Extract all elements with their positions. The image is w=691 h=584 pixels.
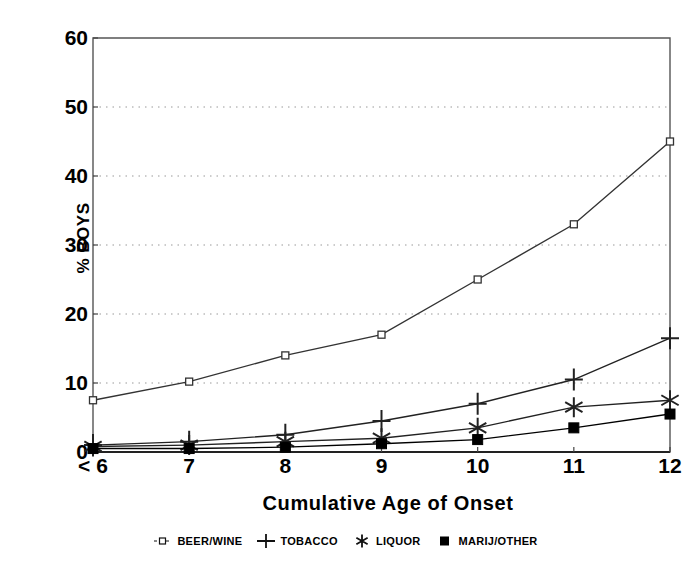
plus-icon — [256, 534, 276, 548]
legend-item: MARIJ/OTHER — [435, 534, 538, 548]
marker-plus — [469, 393, 487, 415]
x-tick-label: 11 — [563, 455, 585, 476]
marker-open-square — [474, 276, 481, 283]
filled-square-icon — [435, 534, 455, 548]
x-tick-label: 8 — [279, 455, 291, 476]
marker-filled-square — [665, 409, 675, 419]
x-tick-label: 9 — [376, 455, 388, 476]
marker-open-square — [186, 378, 193, 385]
asterisk-icon — [352, 534, 372, 548]
legend-item: BEER/WINE — [153, 534, 242, 548]
marker-filled-square — [473, 435, 483, 445]
series-line — [93, 142, 670, 401]
x-tick-label: 10 — [466, 455, 489, 476]
legend-filled-square — [440, 537, 449, 546]
marker-open-square — [90, 397, 97, 404]
marker-filled-square — [184, 444, 194, 454]
chart-figure: % BOYS 0102030405060 < 6789101112 Cumula… — [0, 0, 691, 584]
chart-legend: BEER/WINETOBACCOLIQUORMARIJ/OTHER — [0, 534, 691, 548]
plot-frame — [93, 38, 670, 452]
marker-open-square — [667, 138, 674, 145]
legend-open-square — [160, 538, 166, 544]
marker-open-square — [378, 331, 385, 338]
legend-label: TOBACCO — [280, 535, 338, 547]
legend-item: TOBACCO — [256, 534, 338, 548]
open-square-with-line-icon — [153, 534, 173, 548]
legend-label: MARIJ/OTHER — [459, 535, 538, 547]
marker-filled-square — [280, 442, 290, 452]
legend-item: LIQUOR — [352, 534, 421, 548]
marker-open-square — [282, 352, 289, 359]
x-tick-label: 12 — [658, 455, 681, 476]
legend-plus — [257, 534, 275, 548]
x-tick-label: 7 — [183, 455, 195, 476]
marker-open-square — [570, 221, 577, 228]
legend-label: LIQUOR — [376, 535, 421, 547]
marker-filled-square — [88, 444, 98, 454]
marker-plus — [565, 369, 583, 391]
marker-filled-square — [569, 423, 579, 433]
legend-label: BEER/WINE — [177, 535, 242, 547]
x-axis-title: Cumulative Age of Onset — [93, 492, 683, 515]
series-beer-wine — [90, 138, 674, 404]
marker-plus — [661, 327, 679, 349]
x-axis-tick-labels: < 6789101112 — [0, 455, 691, 485]
marker-filled-square — [377, 439, 387, 449]
legend-asterisk — [356, 535, 367, 548]
x-tick-label: < 6 — [78, 455, 108, 476]
